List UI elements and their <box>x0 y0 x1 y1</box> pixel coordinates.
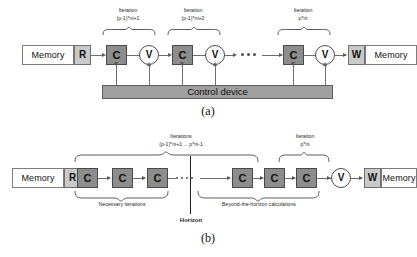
iteration-label-3: Iteration p*ni <box>276 7 330 22</box>
panel-a-caption: (a) <box>178 104 238 119</box>
arrowhead-control-in-c2 <box>180 62 184 66</box>
horizon-line <box>190 156 191 214</box>
compute-stage-b-4: C <box>232 168 253 188</box>
horizon-label: Horizon <box>161 216 221 224</box>
read-port-a: R <box>74 45 91 65</box>
last-iteration-label-line1: Iteration <box>278 133 332 141</box>
ellipsis-a <box>241 53 256 56</box>
last-iteration-label-line2: p*ni <box>278 141 332 149</box>
control-wire-up-1 <box>149 65 150 86</box>
arrowhead-v2-to-dots-a <box>233 53 237 57</box>
panel-b: Iterations (p-1)*ni+1 ... p*ni-1 Iterati… <box>0 128 417 257</box>
arrowhead-c1-to-c2-b <box>107 176 111 180</box>
iterations-range-label: Iterations (p-1)*ni+1 ... p*ni-1 <box>133 133 229 148</box>
iteration-label-2-line1: Iteration <box>166 7 220 15</box>
arrowhead-control-in-c3 <box>291 62 295 66</box>
iterations-range-label-line2: (p-1)*ni+1 ... p*ni-1 <box>133 141 229 149</box>
wire-c3-to-dots-b <box>168 178 176 179</box>
compute-stage-b-3: C <box>147 168 168 188</box>
memory-input-block-b: Memory <box>12 168 64 188</box>
compute-stage-b-1: C <box>77 168 98 188</box>
control-device-bar: Control device <box>102 85 333 99</box>
verify-stage-b: V <box>331 168 351 188</box>
memory-input-block-a: Memory <box>22 45 74 65</box>
arrowhead-dots-to-c4-b <box>227 176 231 180</box>
compute-stage-b-6: C <box>296 168 317 188</box>
control-wire-down-2 <box>182 65 183 86</box>
memory-output-block-b: Memory <box>381 168 417 188</box>
wire-dots-to-c4-b <box>200 178 230 179</box>
necessary-iterations-label: Necessary iterations <box>73 201 171 208</box>
arrowhead-control-out-v2 <box>213 62 217 66</box>
iterations-range-label-line1: Iterations <box>133 133 229 141</box>
control-wire-up-3 <box>325 65 326 86</box>
iteration-label-1-line2: (p-1)*ni+1 <box>101 15 155 23</box>
iteration-label-1-line1: Iteration <box>101 7 155 15</box>
brace-iterations-range <box>73 149 261 167</box>
compute-stage-b-2: C <box>112 168 133 188</box>
arrowhead-v3-to-w-a <box>343 53 347 57</box>
panel-a: Iteration (p-1)*ni+1 Iteration (p-1)*ni+… <box>0 0 417 128</box>
control-wire-down-1 <box>116 65 117 86</box>
arrowhead-control-in-c1 <box>114 62 118 66</box>
control-wire-up-2 <box>215 65 216 86</box>
iteration-label-2-line2: (p-1)*ni+2 <box>166 15 220 23</box>
iteration-label-3-line1: Iteration <box>276 7 330 15</box>
panel-b-caption: (b) <box>178 231 238 246</box>
last-iteration-label: Iteration p*ni <box>278 133 332 148</box>
write-port-b: W <box>364 168 381 188</box>
arrowhead-c2-to-c3-b <box>142 176 146 180</box>
brace-last-iteration <box>277 149 331 167</box>
compute-stage-b-5: C <box>264 168 285 188</box>
brace-iteration-3 <box>276 22 332 40</box>
control-wire-down-3 <box>293 65 294 86</box>
memory-output-block-a: Memory <box>365 45 417 65</box>
brace-iteration-2 <box>166 22 222 40</box>
iteration-label-3-line2: p*ni <box>276 15 330 23</box>
iteration-label-2: Iteration (p-1)*ni+2 <box>166 7 220 22</box>
arrowhead-control-out-v3 <box>323 62 327 66</box>
brace-iteration-1 <box>101 22 157 40</box>
iteration-label-1: Iteration (p-1)*ni+1 <box>101 7 155 22</box>
arrowhead-v-to-w-b <box>359 176 363 180</box>
beyond-horizon-label: Beyond-the-horizon calculations <box>196 201 322 208</box>
arrowhead-control-out-v1 <box>147 62 151 66</box>
write-port-a: W <box>348 45 365 65</box>
